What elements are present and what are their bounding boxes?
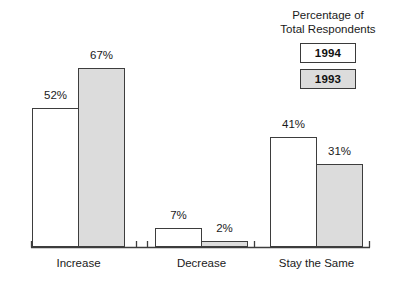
bar-chart-figure: Percentage of Total Respondents 1994 199… <box>0 0 400 283</box>
x-axis-label-stay-the-same: Stay the Same <box>270 257 363 269</box>
bar-decrease-1993[interactable] <box>201 241 248 247</box>
bar-increase-1993[interactable] <box>78 68 125 247</box>
bar-decrease-1994[interactable] <box>155 228 202 247</box>
bar-stay-the-same-1993[interactable] <box>316 164 363 247</box>
x-axis-label-increase: Increase <box>32 257 125 269</box>
bar-value-label-decrease-1994: 7% <box>155 209 202 221</box>
bar-value-label-increase-1994: 52% <box>32 89 79 101</box>
bar-value-label-stay-the-same-1994: 41% <box>270 118 317 130</box>
bar-increase-1994[interactable] <box>32 108 79 247</box>
bar-stay-the-same-1994[interactable] <box>270 137 317 247</box>
x-axis-label-decrease: Decrease <box>155 257 248 269</box>
bar-value-label-increase-1993: 67% <box>78 49 125 61</box>
bar-value-label-stay-the-same-1993: 31% <box>316 145 363 157</box>
bar-value-label-decrease-1993: 2% <box>201 222 248 234</box>
plot-area: 52% 67% Increase 7% 2% Decrease 41% 31% … <box>0 0 400 283</box>
